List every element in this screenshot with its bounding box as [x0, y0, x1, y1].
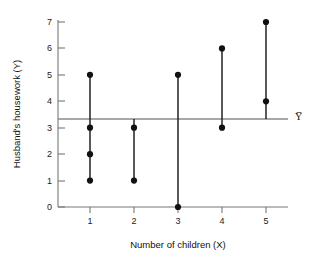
y-tick-label-6: 6	[47, 43, 52, 53]
data-point	[175, 204, 181, 210]
chart-figure: 7 6 5 4 3 2 1 0 1 2 3 4 5 Number of chil…	[0, 0, 320, 261]
data-point	[263, 19, 269, 25]
data-point	[87, 125, 93, 131]
y-tick-label-3: 3	[47, 123, 52, 133]
x-tick-label-4: 4	[219, 216, 224, 226]
data-point	[263, 98, 269, 104]
mean-line-label: Y̅	[295, 111, 302, 122]
x-tick-label-5: 5	[263, 216, 268, 226]
x-tick-label-1: 1	[87, 216, 92, 226]
data-point	[131, 125, 137, 131]
data-point	[131, 177, 137, 183]
y-tick-label-2: 2	[47, 149, 52, 159]
y-tick-label-5: 5	[47, 70, 52, 80]
data-point	[175, 72, 181, 78]
data-point	[219, 125, 225, 131]
y-tick-label-7: 7	[47, 17, 52, 27]
y-tick-label-0: 0	[47, 202, 52, 212]
data-point	[87, 72, 93, 78]
scatter-plot: 7 6 5 4 3 2 1 0 1 2 3 4 5 Number of chil…	[0, 0, 320, 261]
data-series-group	[87, 19, 269, 210]
data-point	[87, 177, 93, 183]
y-axis-title: Husband's housework (Y)	[11, 60, 22, 168]
y-tick-label-1: 1	[47, 176, 52, 186]
data-point	[219, 45, 225, 51]
x-tick-label-3: 3	[175, 216, 180, 226]
y-tick-label-4: 4	[47, 96, 52, 106]
data-point	[87, 151, 93, 157]
x-axis-title: Number of children (X)	[130, 239, 226, 250]
x-tick-label-2: 2	[131, 216, 136, 226]
